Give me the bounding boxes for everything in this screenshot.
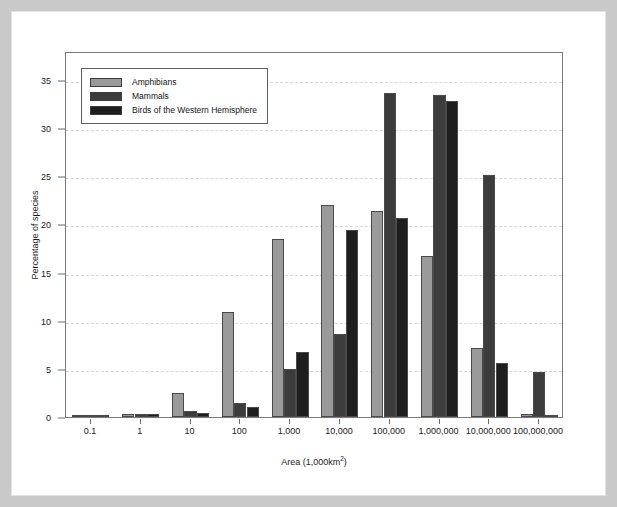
x-tick-mark [190,419,191,424]
y-tick-mark [58,177,65,178]
bar [496,363,508,417]
legend-label: Birds of the Western Hemisphere [132,105,257,115]
y-tick-label: 5 [46,365,51,375]
x-tick-label: 10 [184,426,194,436]
x-tick-label: 100,000 [372,426,405,436]
x-axis: 0.11101001,00010,000100,0001,000,00010,0… [65,419,563,459]
bar [234,403,246,417]
bar [471,348,483,417]
x-tick-mark [488,419,489,424]
bar [321,205,333,417]
x-tick-mark [289,419,290,424]
legend-swatch [90,78,122,87]
y-tick-mark [58,129,65,130]
bar [446,101,458,417]
bar [72,415,84,417]
x-tick-mark [339,419,340,424]
bar [421,256,433,417]
x-tick-mark [239,419,240,424]
bar [222,312,234,417]
x-tick-label: 10,000,000 [466,426,511,436]
bar [272,239,284,417]
y-tick-label: 20 [41,220,51,230]
x-tick-label: 1,000 [278,426,301,436]
legend-item: Mammals [90,89,257,103]
y-tick-label: 15 [41,269,51,279]
bar [122,414,134,417]
legend-item: Birds of the Western Hemisphere [90,103,257,117]
y-tick-label: 0 [46,413,51,423]
x-tick-mark [90,419,91,424]
bar [184,411,196,417]
screenshot-page: 05101520253035 Percentage of species 0.1… [0,0,617,507]
x-axis-title-tail: ) [344,457,347,467]
x-tick-mark [439,419,440,424]
bar [521,414,533,417]
bar-chart-figure: 05101520253035 Percentage of species 0.1… [12,12,607,497]
bar [147,414,159,417]
y-tick-label: 35 [41,76,51,86]
x-tick-label: 10,000 [325,426,353,436]
y-tick-label: 30 [41,124,51,134]
bar [533,372,545,417]
bar [371,211,383,417]
bar [384,93,396,417]
bar [346,230,358,417]
y-tick-mark [58,418,65,419]
legend-label: Mammals [132,91,169,101]
document-page: 05101520253035 Percentage of species 0.1… [11,11,606,496]
bar [483,175,495,417]
bar [334,334,346,417]
y-axis-title: Percentage of species [30,52,42,418]
x-axis-title-base: Area (1,000km [281,457,340,467]
legend-swatch [90,106,122,115]
bar [247,407,259,417]
x-tick-label: 100,000,000 [513,426,563,436]
bar [172,393,184,417]
y-tick-mark [58,225,65,226]
y-tick-mark [58,369,65,370]
x-tick-label: 100 [232,426,247,436]
bar [85,415,97,417]
bar [97,415,109,417]
y-tick-label: 25 [41,172,51,182]
y-tick-mark [58,273,65,274]
bar [296,352,308,417]
x-tick-mark [538,419,539,424]
bar [396,218,408,417]
x-tick-mark [389,419,390,424]
y-tick-mark [58,321,65,322]
legend-swatch [90,92,122,101]
y-tick-label: 10 [41,317,51,327]
x-axis-title: Area (1,000km2) [65,455,563,467]
y-tick-mark [58,80,65,81]
legend: AmphibiansMammalsBirds of the Western He… [81,68,268,124]
bar [284,369,296,417]
x-tick-label: 0.1 [84,426,97,436]
bar [545,415,557,417]
bar [433,95,445,417]
x-tick-label: 1 [137,426,142,436]
legend-label: Amphibians [132,77,176,87]
x-tick-mark [140,419,141,424]
gridline [66,130,562,131]
x-tick-label: 1,000,000 [418,426,458,436]
bar [197,413,209,417]
legend-item: Amphibians [90,75,257,89]
bar [135,414,147,417]
